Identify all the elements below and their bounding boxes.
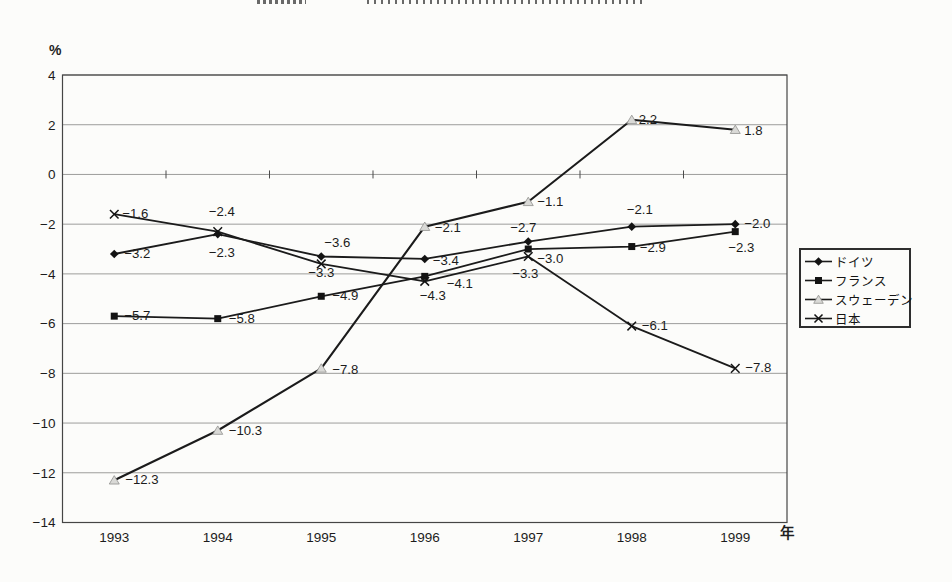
data-label-sweden: −2.1 — [435, 220, 461, 235]
data-label-japan: −7.8 — [745, 360, 771, 375]
y-tick-label: −10 — [33, 416, 56, 431]
data-label-france: −3.0 — [537, 251, 563, 266]
data-label-japan: −4.3 — [420, 288, 446, 303]
data-label-france: −5.7 — [124, 308, 150, 323]
data-label-germany: −2.7 — [510, 220, 536, 235]
y-tick-label: −4 — [40, 267, 56, 282]
triangle-marker-icon — [805, 294, 832, 305]
data-label-japan: −6.1 — [642, 318, 668, 333]
triangle-marker-icon — [213, 426, 223, 434]
x-marker-icon — [805, 313, 832, 324]
legend-item-germany: ドイツ — [805, 252, 909, 271]
diamond-marker-icon — [731, 220, 740, 229]
triangle-marker-icon — [109, 476, 119, 484]
data-label-japan: −1.6 — [122, 206, 148, 221]
x-tick-label: 1994 — [203, 530, 234, 545]
data-label-france: −2.3 — [728, 240, 754, 255]
data-label-sweden: −12.3 — [125, 472, 158, 487]
page: % 年 420−2−4−6−8−10−12−141993199419951996… — [0, 0, 952, 582]
diamond-marker-icon — [627, 222, 636, 231]
square-marker-icon — [318, 293, 325, 300]
x-tick-label: 1997 — [513, 530, 543, 545]
legend: ドイツ フランス スウェーデン 日本 — [799, 248, 911, 328]
data-label-japan: −3.3 — [512, 266, 538, 281]
y-tick-label: −2 — [40, 217, 55, 232]
data-label-germany: −3.4 — [433, 253, 459, 268]
data-label-france: −4.9 — [332, 288, 358, 303]
data-label-sweden: 2.2 — [639, 112, 657, 127]
diamond-marker-icon — [805, 256, 832, 267]
square-marker-icon — [628, 243, 635, 250]
data-label-france: −2.9 — [640, 240, 666, 255]
x-tick-label: 1998 — [617, 530, 647, 545]
x-tick-label: 1995 — [306, 530, 336, 545]
data-label-france: −4.1 — [447, 276, 473, 291]
y-tick-label: −14 — [33, 515, 56, 530]
diamond-marker-icon — [110, 250, 119, 259]
legend-label: 日本 — [835, 309, 861, 328]
legend-label: フランス — [835, 271, 887, 290]
data-label-sweden: −10.3 — [229, 423, 262, 438]
y-tick-label: 2 — [48, 118, 56, 133]
data-label-germany: −2.4 — [209, 204, 235, 219]
data-label-france: −5.8 — [229, 311, 255, 326]
x-tick-label: 1993 — [99, 530, 129, 545]
data-label-germany: −3.3 — [308, 265, 334, 280]
square-marker-icon — [732, 228, 739, 235]
x-tick-label: 1999 — [720, 530, 750, 545]
square-marker-icon — [525, 246, 532, 253]
x-tick-label: 1996 — [410, 530, 440, 545]
square-marker-icon — [111, 313, 118, 320]
data-label-germany: −3.2 — [124, 246, 150, 261]
legend-item-japan: 日本 — [805, 309, 909, 328]
y-tick-label: −12 — [33, 466, 56, 481]
legend-item-sweden: スウェーデン — [805, 290, 909, 309]
data-label-sweden: −1.1 — [537, 194, 563, 209]
data-label-japan: −3.6 — [324, 235, 350, 250]
diamond-marker-icon — [317, 252, 326, 261]
legend-label: ドイツ — [835, 252, 874, 271]
square-marker-icon — [214, 315, 221, 322]
y-tick-label: −6 — [40, 316, 55, 331]
y-tick-label: 0 — [48, 167, 56, 182]
y-tick-label: −8 — [40, 366, 55, 381]
legend-item-france: フランス — [805, 271, 909, 290]
square-marker-icon — [805, 275, 832, 286]
data-label-germany: −2.1 — [627, 202, 653, 217]
legend-label: スウェーデン — [835, 290, 913, 309]
diamond-marker-icon — [524, 237, 533, 246]
data-label-sweden: 1.8 — [744, 123, 762, 138]
diamond-marker-icon — [420, 255, 429, 264]
data-label-japan: −2.3 — [209, 245, 235, 260]
y-tick-label: 4 — [48, 68, 56, 83]
data-label-sweden: −7.8 — [332, 362, 358, 377]
data-label-germany: −2.0 — [744, 216, 770, 231]
